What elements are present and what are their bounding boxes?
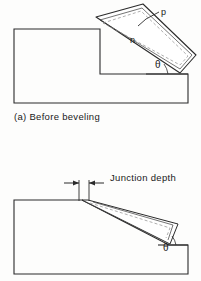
junction-depth-label: Junction depth xyxy=(110,173,176,183)
figure-line-art xyxy=(0,0,201,281)
top-inclined-slab-outline xyxy=(96,4,196,73)
bottom-diagram xyxy=(14,180,188,274)
junction-depth-arrow-left-head xyxy=(73,181,79,186)
bottom-theta-label: θ xyxy=(163,243,169,253)
top-theta-label: θ xyxy=(155,60,161,70)
p-region-label: p xyxy=(161,8,166,17)
figure-caption-a: (a) Before beveling xyxy=(14,112,100,122)
junction-depth-arrow-right-head xyxy=(89,181,95,186)
bottom-theta-arc xyxy=(172,236,176,245)
beveling-figure: p n θ (a) Before beveling Junction depth… xyxy=(0,0,201,281)
top-theta-arc xyxy=(164,64,168,74)
n-region-label: n xyxy=(130,36,135,45)
top-diagram xyxy=(14,4,196,103)
